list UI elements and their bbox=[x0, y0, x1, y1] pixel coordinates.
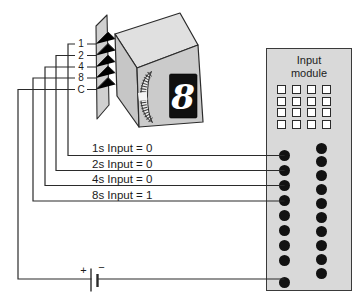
wire-label-2: 2 bbox=[75, 51, 87, 61]
wheel-highlight bbox=[138, 92, 148, 101]
battery-negative-sign: − bbox=[96, 261, 108, 273]
wiring-diagram bbox=[0, 0, 356, 305]
battery-positive-sign: + bbox=[78, 264, 90, 276]
thumbwheel-digit: 8 bbox=[169, 74, 198, 118]
wire-label-1: 1 bbox=[75, 39, 87, 49]
annotation-4s-input: 4s Input = 0 bbox=[92, 174, 152, 186]
wire-label-8: 8 bbox=[75, 73, 87, 83]
annotation-8s-input: 8s Input = 1 bbox=[92, 190, 152, 202]
wire-label-common: C bbox=[75, 85, 87, 95]
wire-label-4: 4 bbox=[75, 62, 87, 72]
diagram-stage: Input module bbox=[0, 0, 356, 305]
wire-common bbox=[18, 90, 96, 280]
annotation-1s-input: 1s Input = 0 bbox=[92, 143, 152, 155]
annotation-2s-input: 2s Input = 0 bbox=[92, 159, 152, 171]
